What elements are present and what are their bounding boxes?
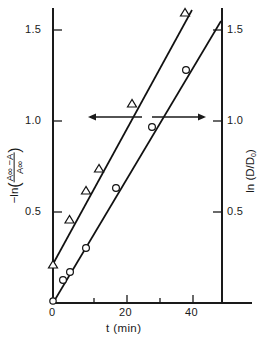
data-point-circle: [83, 245, 90, 252]
data-point-circle: [67, 269, 74, 276]
y-right-subscript: 0: [250, 153, 257, 157]
data-point-triangle: [95, 165, 104, 173]
x-tick-label-40: 40: [185, 306, 198, 318]
data-point-triangle: [181, 9, 190, 17]
plot-area: [0, 0, 277, 342]
axis-lines: [53, 8, 252, 303]
series-triangle-fit-line: [53, 10, 192, 264]
series-triangle-markers: [49, 9, 190, 269]
right-tick-label-0.5: 0.5: [227, 205, 243, 217]
x-axis-title: t (min): [106, 322, 141, 334]
series-circle-fit-line: [53, 21, 221, 303]
right-arrow-annotation: [152, 114, 206, 121]
right-tick-label-1.5: 1.5: [227, 23, 243, 35]
y-left-open-paren: (: [6, 182, 23, 187]
data-point-triangle: [49, 261, 58, 269]
left-tick-label-0.5: 0.5: [25, 205, 41, 217]
left-arrow-head: [88, 114, 96, 121]
x-tick-label-0: 0: [49, 306, 55, 318]
right-axis-ticks: [213, 30, 222, 212]
chart-figure: 1.5 1.0 0.5 1.5 1.0 0.5 0 20 40 t (min) …: [0, 0, 277, 342]
y-right-prefix: ln (D/D: [244, 157, 256, 193]
y-axis-right-title: ln (D/D0): [244, 129, 256, 213]
left-tick-label-1.5: 1.5: [25, 23, 41, 35]
x-axis-ticks: [94, 295, 193, 303]
data-point-circle: [113, 185, 120, 192]
data-point-triangle: [65, 216, 74, 224]
y-axis-left-title: −ln(A∞ −AA∞): [5, 133, 26, 217]
data-point-triangle: [82, 187, 91, 195]
right-arrow-head: [198, 114, 206, 121]
x-tick-label-20: 20: [119, 306, 132, 318]
left-tick-label-1.0: 1.0: [25, 114, 41, 126]
y-left-denominator: A∞: [15, 153, 25, 183]
data-point-circle: [50, 298, 56, 304]
data-point-circle: [183, 67, 190, 74]
data-point-triangle: [128, 100, 137, 108]
data-point-circle: [60, 277, 67, 284]
y-left-prefix: −ln: [8, 188, 20, 204]
data-point-circle: [149, 124, 156, 131]
series-circle-markers: [50, 67, 190, 305]
left-axis-ticks: [53, 30, 62, 212]
right-tick-label-1.0: 1.0: [227, 114, 243, 126]
y-left-fraction: A∞ −AA∞: [4, 153, 25, 183]
